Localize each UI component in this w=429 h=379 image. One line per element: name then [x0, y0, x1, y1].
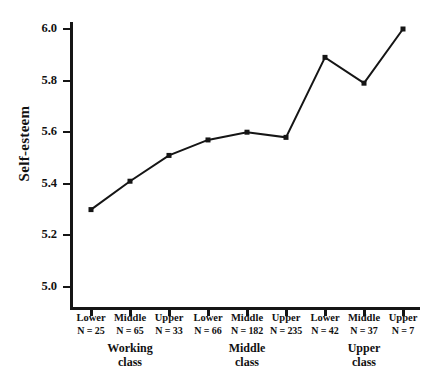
data-point-marker [323, 55, 328, 60]
data-point-marker [89, 207, 94, 212]
x-category-sample-size: N = 7 [373, 325, 429, 338]
x-group-label-line1: Upper [348, 341, 381, 355]
x-group-label-line2: class [85, 355, 175, 369]
series-line [91, 29, 403, 210]
x-category-name: Upper [389, 312, 418, 323]
plot-area: 5.05.25.45.65.86.0 [70, 22, 420, 310]
data-series [70, 22, 420, 310]
data-point-marker [245, 130, 250, 135]
x-group-label: Upperclass [319, 341, 409, 369]
x-group-label-line2: class [202, 355, 292, 369]
y-tick-label: 5.2 [17, 227, 57, 242]
y-tick-label: 5.0 [17, 279, 57, 294]
data-point-marker [284, 135, 289, 140]
series-markers [89, 27, 406, 213]
y-axis-title-container: Self-esteem [0, 0, 34, 310]
chart-figure: Self-esteem 5.05.25.45.65.86.0 LowerN = … [0, 0, 429, 379]
data-point-marker [167, 153, 172, 158]
data-point-marker [128, 179, 133, 184]
y-tick-label: 5.6 [17, 124, 57, 139]
x-group-label-line1: Working [107, 341, 152, 355]
x-category-label: UpperN = 7 [373, 312, 429, 337]
data-point-marker [206, 137, 211, 142]
x-group-label: Middleclass [202, 341, 292, 369]
x-group-label-line2: class [319, 355, 409, 369]
x-group-label-line1: Middle [229, 341, 266, 355]
x-group-label: Workingclass [85, 341, 175, 369]
y-tick-label: 5.8 [17, 73, 57, 88]
x-axis-group-labels: WorkingclassMiddleclassUpperclass [70, 341, 429, 377]
data-point-marker [362, 81, 367, 86]
y-tick-label: 6.0 [17, 21, 57, 36]
data-point-marker [401, 27, 406, 32]
y-tick-label: 5.4 [17, 176, 57, 191]
